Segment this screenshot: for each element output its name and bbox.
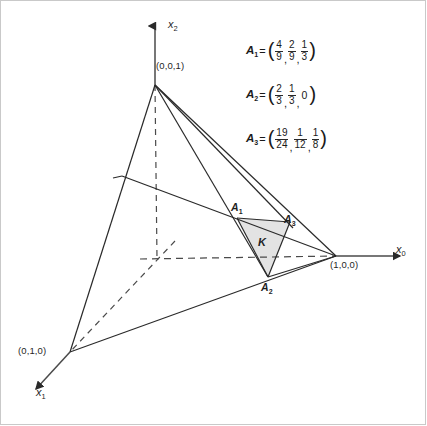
axis-x0-label: x0: [396, 243, 406, 258]
formula-a1-name: A1: [246, 44, 258, 58]
formula-a2-open-paren: (: [268, 84, 275, 104]
formula-a3-open-paren: (: [268, 128, 275, 148]
axis-x1-label: x1: [36, 386, 46, 401]
vertex-010-label: (0,1,0): [18, 345, 46, 356]
formula-a1: A1 = ( 4 9 , 2 9 , 1 3 ): [246, 36, 406, 66]
formula-a3-term-1: 19 24: [275, 128, 288, 150]
formula-a1-equals: =: [259, 45, 265, 57]
formula-a3-equals: =: [259, 133, 265, 145]
line-a2-a3-100: [268, 256, 336, 277]
formula-a2-term-3: 0: [301, 89, 309, 101]
formula-a2-term-2: 1 3: [288, 84, 296, 106]
formula-a3-name: A3: [246, 132, 258, 146]
point-a2-label: A2: [261, 281, 273, 295]
formula-a1-term-2: 2 9: [288, 40, 296, 62]
formula-a1-term-1: 4 9: [275, 40, 283, 62]
formula-a3-term-3: 1 8: [312, 128, 320, 150]
point-a1-label: A1: [231, 201, 243, 215]
line-leftedge-connector: [113, 176, 122, 178]
formula-a1-open-paren: (: [268, 40, 275, 60]
formula-a2: A2 = ( 2 3 , 1 3 , 0 ): [246, 80, 406, 110]
axis-x2-dashed: [155, 85, 157, 259]
axis-x1-dashed: [70, 241, 175, 352]
formula-a2-equals: =: [259, 89, 265, 101]
simplex-edge-001-010: [70, 85, 155, 352]
point-a3-label: A3: [284, 213, 296, 227]
formula-a3-term-2: 1 12: [294, 128, 307, 150]
formula-a1-term-3: 1 3: [301, 40, 309, 62]
simplex-edge-010-100: [70, 256, 336, 352]
formula-list: A1 = ( 4 9 , 2 9 , 1 3 ) A2 =: [246, 36, 406, 168]
formula-a3: A3 = ( 19 24 , 1 12 , 1 8 ): [246, 124, 406, 154]
formula-a3-close-paren: ): [320, 128, 327, 148]
formula-a2-name: A2: [246, 88, 258, 102]
formula-a2-term-1: 2 3: [275, 84, 283, 106]
vertex-100-label: (1,0,0): [330, 259, 358, 270]
formula-a2-close-paren: ): [309, 84, 316, 104]
region-k-label: K: [258, 236, 266, 248]
formula-a1-close-paren: ): [309, 40, 316, 60]
axis-x0-dashed: [140, 256, 336, 259]
axis-x1-line: [36, 352, 70, 389]
simplex-figure: x2 x0 x1 (0,0,1) (1,0,0) (0,1,0) A1 A2 A…: [0, 0, 427, 426]
vertex-001-label: (0,0,1): [156, 60, 184, 71]
line-leftnode-a1-100: [122, 176, 336, 256]
axis-x2-label: x2: [168, 18, 178, 33]
